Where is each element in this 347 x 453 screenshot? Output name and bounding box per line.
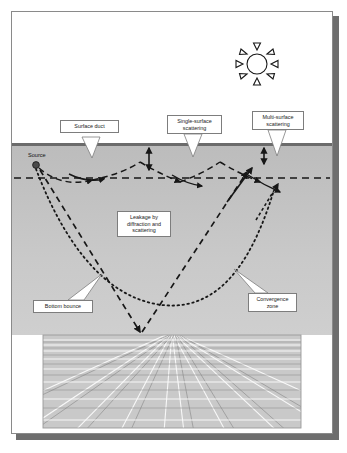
seafloor-grid xyxy=(12,332,332,432)
multi-surface-tail xyxy=(268,130,286,156)
convergence-zone-arrow xyxy=(256,184,278,220)
single-surface-tail xyxy=(184,134,202,157)
callout-single-surface-scattering: Single-surface scattering xyxy=(167,115,222,134)
callout-tails xyxy=(82,130,286,158)
figure-root: Source Surface duct Single-surface scatt… xyxy=(0,0,347,453)
figure-frame: Source Surface duct Single-surface scatt… xyxy=(11,11,333,434)
diagram-vector-layer xyxy=(12,12,332,433)
convergence-zone-leader xyxy=(234,269,268,293)
seafloor-panel xyxy=(12,332,332,432)
sun-icon xyxy=(236,43,278,85)
source-marker xyxy=(33,162,40,169)
callout-surface-duct: Surface duct xyxy=(60,120,119,133)
callout-leakage: Leakage by diffraction and scattering xyxy=(117,211,171,237)
callout-multi-surface-scattering: Multi-surface scattering xyxy=(252,111,304,130)
callout-convergence-zone: Convergence zone xyxy=(248,293,297,312)
callout-bottom-bounce: Bottom bounce xyxy=(33,300,93,313)
convergence-zone-path xyxy=(36,169,274,306)
diagram-scene: Source Surface duct Single-surface scatt… xyxy=(12,12,332,433)
source-label: Source xyxy=(28,152,46,158)
bottom-bounce-leader xyxy=(68,274,102,300)
surface-duct-tail xyxy=(82,137,100,158)
